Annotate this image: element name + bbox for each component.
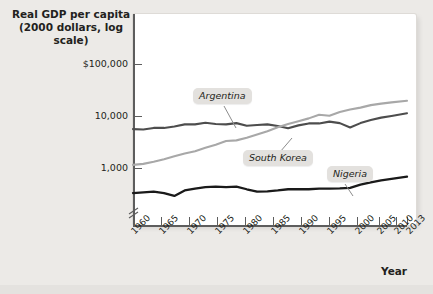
plot-area-background <box>133 14 416 225</box>
series-label-nigeria: Nigeria <box>327 166 373 182</box>
series-label-argentina: Argentina <box>193 88 252 104</box>
y-tick-label-10000: 10,000 <box>0 110 128 122</box>
y-tick-10000 <box>134 116 142 117</box>
y-axis-title-line1: Real GDP per capita <box>6 8 136 21</box>
y-tick-label-1000: 1,000 <box>0 162 128 174</box>
y-axis-title-line2: (2000 dollars, log scale) <box>6 21 136 47</box>
series-label-south-korea: South Korea <box>243 150 313 166</box>
y-tick-1000 <box>134 168 142 169</box>
y-axis-title: Real GDP per capita (2000 dollars, log s… <box>6 8 136 47</box>
chart-page: Real GDP per capita (2000 dollars, log s… <box>0 0 433 294</box>
page-bottom-edge <box>0 285 433 294</box>
y-axis-line <box>133 14 135 226</box>
x-axis-title: Year <box>381 265 407 277</box>
y-tick-label-100000: $100,000 <box>0 58 128 70</box>
y-tick-100000 <box>134 64 142 65</box>
